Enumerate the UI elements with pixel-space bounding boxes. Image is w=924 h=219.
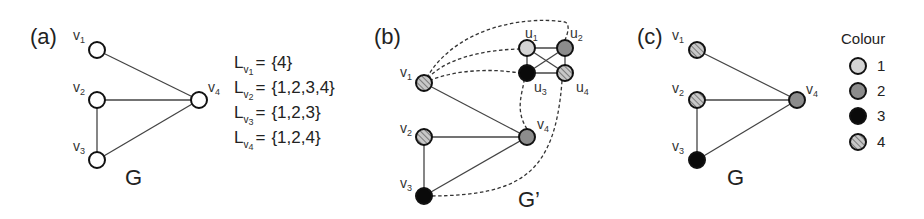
colour-lists: Lv1={4} Lv2={1,2,3,4} Lv3={1,2,3} Lv4={1… <box>234 53 335 152</box>
edge-v3-v4 <box>97 100 199 160</box>
legend-label-4: 4 <box>877 133 885 150</box>
graph-name-g: G <box>727 165 744 190</box>
node-v1-colour-4 <box>689 42 705 58</box>
node-v4-colour-2 <box>519 129 535 145</box>
legend-swatch-colour-4 <box>850 134 866 150</box>
list-v3: Lv3={1,2,3} <box>234 103 321 127</box>
dashed-edge-v3-u4 <box>432 81 562 196</box>
node-v1-colour-4 <box>416 75 432 91</box>
legend-swatch-colour-2 <box>850 83 866 99</box>
legend-swatch-colour-1 <box>850 58 866 74</box>
label-v1: v1 <box>672 27 684 45</box>
panel-b: (b) <box>374 20 589 212</box>
graph-colouring-figure: (a) v1 v2 v3 v4 G Lv1={4} Lv2={1,2,3,4} <box>0 0 924 219</box>
node-v3-colour-3 <box>416 188 432 204</box>
label-v1: v1 <box>73 27 85 45</box>
legend-label-2: 2 <box>877 82 885 99</box>
panel-b-label: (b) <box>374 24 401 49</box>
legend-label-1: 1 <box>877 57 885 74</box>
legend-label-3: 3 <box>877 107 885 124</box>
edge-v1-v4 <box>424 83 527 137</box>
edge-v1-v4 <box>97 50 199 100</box>
dashed-edge-v4-u3 <box>520 81 527 129</box>
label-v3: v3 <box>400 175 412 193</box>
node-u2-colour-2 <box>557 40 573 56</box>
label-v4: v4 <box>208 79 220 97</box>
label-v2: v2 <box>73 79 85 97</box>
list-v1: Lv1={4} <box>234 53 293 77</box>
panel-b-dashed-edges <box>424 20 568 196</box>
node-v2-colour-4 <box>416 129 432 145</box>
label-v3: v3 <box>672 138 684 156</box>
label-v1: v1 <box>400 64 412 82</box>
legend-title: Colour <box>841 30 885 47</box>
label-v2: v2 <box>400 120 412 138</box>
list-v2: Lv2={1,2,3,4} <box>234 78 335 102</box>
node-v4 <box>191 92 207 108</box>
label-u3: u3 <box>534 79 547 97</box>
list-v4: Lv4={1,2,4} <box>234 128 321 152</box>
label-u2: u2 <box>570 25 583 43</box>
node-v2-colour-4 <box>689 92 705 108</box>
node-v3 <box>89 152 105 168</box>
node-u3-colour-3 <box>519 65 535 81</box>
label-u4: u4 <box>576 79 589 97</box>
panel-b-nodes <box>416 40 573 204</box>
node-u4-colour-4 <box>557 65 573 81</box>
legend-swatch-colour-3 <box>850 108 866 124</box>
colour-legend: Colour 1 2 3 4 <box>841 30 885 150</box>
edge-v3-v4 <box>424 137 527 196</box>
label-u1: u1 <box>525 25 538 43</box>
node-v3-colour-3 <box>689 152 705 168</box>
panel-c: (c) v1 v2 v3 v4 G Colour 1 2 3 <box>637 24 885 190</box>
label-v3: v3 <box>73 138 85 156</box>
label-v4: v4 <box>806 81 818 99</box>
panel-a: (a) v1 v2 v3 v4 G Lv1={4} Lv2={1,2,3,4} <box>30 24 335 190</box>
graph-name-g-prime: G’ <box>518 187 540 212</box>
label-v2: v2 <box>672 80 684 98</box>
panel-a-label: (a) <box>30 24 57 49</box>
node-v4-colour-2 <box>789 92 805 108</box>
node-v1 <box>89 42 105 58</box>
label-v4: v4 <box>537 116 549 134</box>
graph-name-g: G <box>125 165 142 190</box>
panel-c-label: (c) <box>637 24 663 49</box>
panel-a-edges <box>97 50 199 160</box>
dashed-edge-v1-u3 <box>424 70 519 83</box>
edge-v1-v4 <box>697 50 797 100</box>
node-v2 <box>89 92 105 108</box>
panel-c-edges <box>697 50 797 160</box>
edge-v3-v4 <box>697 100 797 160</box>
